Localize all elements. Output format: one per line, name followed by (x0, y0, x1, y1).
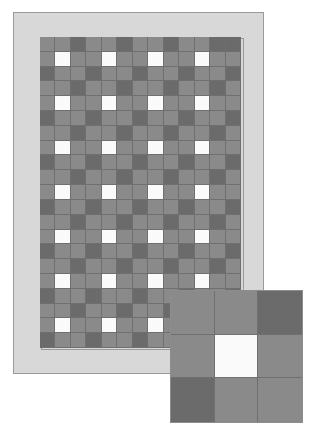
patch-dark (71, 81, 86, 96)
patch-light (195, 141, 210, 156)
patch-mid (117, 155, 132, 170)
patch-mid (133, 52, 148, 67)
patch-dark (133, 111, 148, 126)
patch-dark (179, 244, 194, 259)
patch-mid (55, 155, 70, 170)
patch-mid (179, 81, 194, 96)
patch-mid (226, 52, 241, 67)
patch-mid (210, 185, 225, 200)
patch-dark (40, 67, 55, 82)
patch-dark (71, 126, 86, 141)
patch-mid (133, 185, 148, 200)
patch-mid (86, 215, 101, 230)
patch-dark (133, 289, 148, 304)
patch-dark (71, 304, 86, 319)
patch-mid (195, 170, 210, 185)
patch-mid (86, 141, 101, 156)
patch-mid (71, 274, 86, 289)
patch-dark (179, 67, 194, 82)
patch-mid (86, 259, 101, 274)
patch-dark (117, 304, 132, 319)
patch-mid (179, 215, 194, 230)
patch-dark (164, 37, 179, 52)
patch-dark (164, 126, 179, 141)
patch-mid (164, 185, 179, 200)
patch-mid (210, 230, 225, 245)
patch-mid (195, 67, 210, 82)
patch-dark (117, 170, 132, 185)
patch-mid (164, 230, 179, 245)
patch-dark (71, 259, 86, 274)
patch-mid (164, 67, 179, 82)
patch-mid (171, 291, 215, 335)
patch-mid (102, 333, 117, 348)
patch-light (55, 141, 70, 156)
patch-dark (226, 244, 241, 259)
patch-dark (226, 111, 241, 126)
patch-light (102, 318, 117, 333)
patch-mid (102, 81, 117, 96)
patch-mid (164, 274, 179, 289)
patch-light (148, 96, 163, 111)
patch-light (148, 185, 163, 200)
patch-mid (210, 96, 225, 111)
patch-light (148, 141, 163, 156)
patch-mid (86, 52, 101, 67)
patch-dark (164, 215, 179, 230)
patch-dark (164, 170, 179, 185)
patch-mid (55, 259, 70, 274)
patch-mid (210, 200, 225, 215)
patch-mid (102, 304, 117, 319)
patch-dark (258, 291, 302, 335)
patch-mid (179, 230, 194, 245)
patch-mid (86, 170, 101, 185)
patch-dark (86, 67, 101, 82)
patch-dark (171, 378, 215, 422)
patch-mid (71, 244, 86, 259)
patch-mid (226, 215, 241, 230)
patch-dark (40, 244, 55, 259)
patch-mid (133, 274, 148, 289)
patch-light (148, 52, 163, 67)
patch-mid (148, 215, 163, 230)
patch-mid (117, 274, 132, 289)
patch-mid (179, 96, 194, 111)
patch-mid (148, 200, 163, 215)
patch-mid (195, 200, 210, 215)
patch-mid (71, 96, 86, 111)
patch-mid (148, 126, 163, 141)
patch-mid (195, 155, 210, 170)
patch-mid (71, 185, 86, 200)
patch-mid (148, 304, 163, 319)
patch-mid (210, 244, 225, 259)
patch-mid (195, 111, 210, 126)
patch-mid (40, 126, 55, 141)
patch-mid (55, 333, 70, 348)
patch-mid (226, 96, 241, 111)
patch-mid (148, 170, 163, 185)
patch-dark (210, 126, 225, 141)
patch-dark (86, 244, 101, 259)
patch-dark (117, 37, 132, 52)
patch-mid (195, 215, 210, 230)
patch-mid (117, 333, 132, 348)
patch-mid (164, 141, 179, 156)
patch-mid (55, 200, 70, 215)
patch-dark (86, 333, 101, 348)
patch-dark (117, 81, 132, 96)
patch-mid (117, 141, 132, 156)
patch-dark (179, 111, 194, 126)
patch-mid (40, 185, 55, 200)
patch-mid (179, 185, 194, 200)
patch-mid (195, 259, 210, 274)
patch-mid (102, 200, 117, 215)
patch-mid (148, 259, 163, 274)
patch-mid (117, 318, 132, 333)
patch-dark (117, 126, 132, 141)
patch-mid (40, 81, 55, 96)
patch-dark (226, 67, 241, 82)
patch-mid (71, 141, 86, 156)
patch-dark (179, 200, 194, 215)
patch-mid (179, 170, 194, 185)
patch-mid (71, 200, 86, 215)
